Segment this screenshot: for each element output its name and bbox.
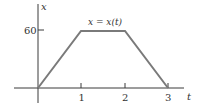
x-tick-label-3: 3 <box>165 92 171 103</box>
x-tick-label-2: 2 <box>122 92 128 103</box>
y-axis-label: x <box>41 1 47 12</box>
x-tick-label-1: 1 <box>79 92 85 103</box>
curve-x-of-t <box>38 31 168 88</box>
curve-label: x = x(t) <box>88 17 123 27</box>
y-tick-label-60: 60 <box>24 25 37 36</box>
position-time-graph: x 60 x = x(t) 1 2 3 t <box>0 0 199 109</box>
x-axis-label: t <box>187 91 192 102</box>
